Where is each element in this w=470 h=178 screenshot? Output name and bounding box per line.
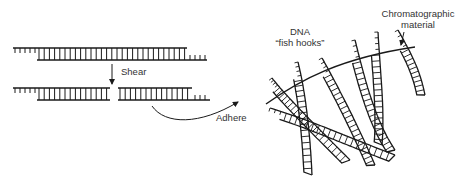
shear-label: Shear [121, 66, 146, 77]
intact-dna-duplex [13, 48, 207, 60]
chrom-label-line2: material [368, 19, 468, 30]
diagram-stage: Shear Adhere DNA “fish hooks” Chromatogr… [0, 0, 470, 178]
dna-fish-hooks-label: DNA “fish hooks” [270, 26, 330, 48]
dna-label-line2: “fish hooks” [270, 37, 330, 48]
chrom-label-line1: Chromatographic [368, 8, 468, 19]
fish-hook-strands [269, 30, 425, 175]
chromatographic-material-line [266, 47, 415, 104]
material-pointer-arrow [401, 32, 404, 45]
chromatographic-material-label: Chromatographic material [368, 8, 468, 30]
dna-label-line1: DNA [270, 26, 330, 37]
sheared-dna-fragments [13, 88, 210, 100]
adhere-label: Adhere [216, 112, 247, 123]
